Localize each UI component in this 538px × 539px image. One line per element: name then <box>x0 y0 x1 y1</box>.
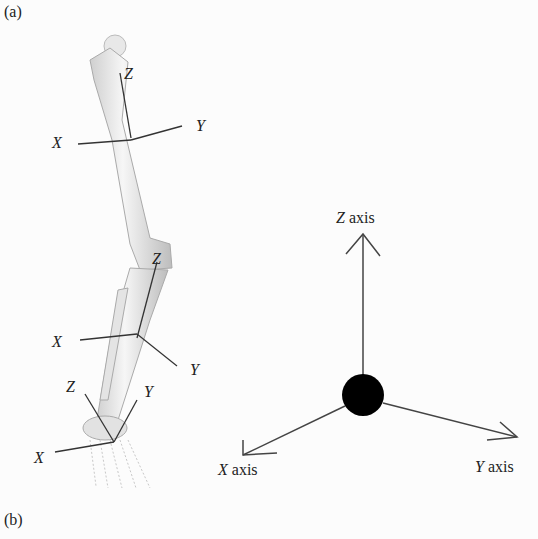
femur-y-label: Y <box>196 118 205 134</box>
ankle-y-label: Y <box>144 384 153 400</box>
figure: (a) (b) Z X Y Z X Y Z Y X Z axis X axis … <box>0 0 538 539</box>
reference-frame-axes <box>243 234 517 455</box>
knee-z-label: Z <box>152 251 161 267</box>
z-axis-label: Z axis <box>336 210 375 226</box>
femur-z-label: Z <box>124 66 133 82</box>
ankle-x-label: X <box>34 450 44 466</box>
foot-bones <box>90 440 150 488</box>
y-axis-label: Y axis <box>475 459 514 475</box>
tibia-x-label: X <box>52 334 62 350</box>
tibia-fibula-bones <box>83 268 168 440</box>
panel-label-b: (b) <box>4 512 23 528</box>
panel-label-a: (a) <box>4 4 22 20</box>
diagram-graphics <box>0 0 538 539</box>
tibia-y-label: Y <box>190 362 199 378</box>
femur-axes <box>78 73 182 144</box>
ankle-z-label: Z <box>66 379 75 395</box>
origin-point <box>342 374 384 416</box>
femur-x-label: X <box>52 135 62 151</box>
x-axis-label: X axis <box>218 462 258 478</box>
